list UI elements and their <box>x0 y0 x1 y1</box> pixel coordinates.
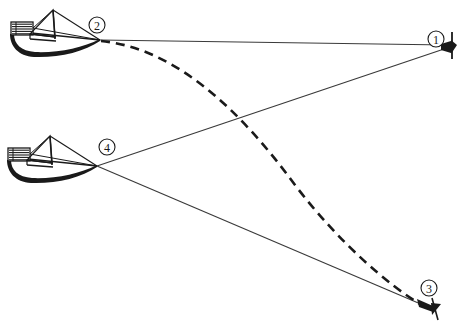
marker-label-1-text: 1 <box>433 33 439 47</box>
marker-label-4-text: 4 <box>104 141 110 155</box>
marker-label-3-text: 3 <box>426 282 432 296</box>
diagram-background <box>0 0 458 329</box>
boat-cabin-upper <box>11 22 33 35</box>
marker-label-2-text: 2 <box>94 19 100 33</box>
marker-label-4[interactable]: 4 <box>99 139 115 155</box>
boat-cabin-lower <box>8 148 30 161</box>
diagram-canvas: 1 2 3 4 <box>0 0 458 329</box>
navigation-diagram: 1 2 3 4 <box>0 0 458 329</box>
marker-label-2[interactable]: 2 <box>89 17 105 33</box>
marker-label-3[interactable]: 3 <box>421 280 437 296</box>
marker-label-1[interactable]: 1 <box>428 31 444 47</box>
